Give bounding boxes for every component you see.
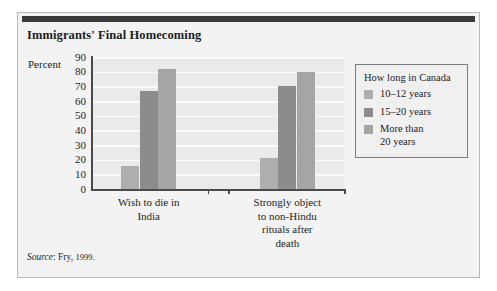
legend-label-line1: More than	[380, 123, 423, 134]
x-category-line: Wish to die in	[118, 196, 180, 208]
y-axis-line	[91, 56, 93, 190]
x-axis-tick	[344, 189, 346, 194]
legend-label-more-than-20-years: More than20 years	[380, 123, 423, 148]
bar	[158, 69, 176, 189]
gridline	[92, 57, 344, 59]
legend-item-10-12-years: 10–12 years	[364, 88, 459, 101]
chart-figure: Immigrants' Final Homecoming Percent 010…	[0, 0, 497, 291]
y-tick-label: 90	[62, 52, 86, 63]
top-rule	[22, 16, 475, 22]
x-category-line: rituals after	[262, 223, 312, 235]
x-category-line: to non-Hindu	[258, 210, 317, 222]
x-category-label: Wish to die inIndia	[94, 196, 204, 223]
x-category-line: India	[137, 210, 160, 222]
y-tick-label: 10	[62, 169, 86, 180]
source-year: 1999.	[75, 252, 94, 262]
legend-swatch-10-12-years	[364, 90, 373, 99]
source-publication: Fry,	[58, 252, 73, 262]
legend-box: How long in Canada 10–12 years 15–20 yea…	[355, 64, 468, 158]
page-title: Immigrants' Final Homecoming	[27, 28, 201, 43]
y-tick-label: 60	[62, 96, 86, 107]
source-note: Source: Fry, 1999.	[27, 252, 95, 262]
legend-item-more-than-20-years: More than20 years	[364, 123, 459, 148]
plot-area	[92, 57, 344, 189]
bar	[260, 158, 278, 189]
source-separator: :	[53, 252, 56, 262]
bar	[121, 166, 139, 189]
y-tick-label: 30	[62, 140, 86, 151]
bar	[297, 72, 315, 189]
y-tick-label: 0	[62, 184, 86, 195]
y-tick-label: 20	[62, 154, 86, 165]
legend-title: How long in Canada	[364, 72, 459, 83]
x-axis-tick	[208, 189, 210, 194]
y-tick-label: 50	[62, 110, 86, 121]
legend-swatch-more-than-20-years	[364, 125, 373, 134]
y-tick-label: 70	[62, 81, 86, 92]
bar	[278, 86, 296, 189]
x-category-line: Strongly object	[254, 196, 322, 208]
x-category-line: death	[275, 237, 299, 249]
legend-label-10-12-years: 10–12 years	[380, 88, 431, 101]
bar	[140, 91, 158, 189]
legend-label-15-20-years: 15–20 years	[380, 106, 431, 119]
x-axis-tick	[228, 189, 230, 194]
x-category-label: Strongly objectto non-Hindurituals after…	[232, 196, 342, 250]
legend-swatch-15-20-years	[364, 108, 373, 117]
x-axis-line	[91, 189, 345, 191]
legend-label-line2: 20 years	[380, 136, 415, 147]
y-tick-label: 40	[62, 125, 86, 136]
legend-item-15-20-years: 15–20 years	[364, 106, 459, 119]
y-tick-label: 80	[62, 66, 86, 77]
y-axis-title: Percent	[28, 58, 61, 70]
source-label: Source	[27, 252, 53, 262]
